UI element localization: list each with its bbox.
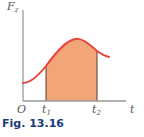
t2-label: t2 [92,103,101,117]
x-axis-label: t [130,103,135,116]
origin-label: O [17,103,26,116]
y-axis-label: Fz [6,0,19,14]
figure-caption: Fig. 13.16 [2,117,64,130]
impulse-shaded-area [46,39,97,101]
t1-label: t1 [42,103,51,117]
